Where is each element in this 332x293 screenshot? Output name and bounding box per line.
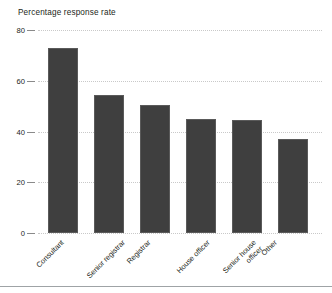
chart-title: Percentage response rate (18, 8, 116, 17)
bar-consultant[interactable] (48, 48, 78, 233)
bar-house-officer[interactable] (186, 119, 216, 233)
bar-registrar[interactable] (140, 105, 170, 233)
chart-figure: Percentage response rate 80 60 40 20 0 (0, 0, 332, 293)
y-tick-label-0: 0 (21, 229, 25, 238)
bottom-divider (0, 286, 332, 287)
x-axis-labels: Consultant Senior registrar Registrar Ho… (38, 236, 322, 288)
bar-senior-house-officer[interactable] (232, 120, 262, 233)
y-tick-label-20: 20 (17, 178, 25, 187)
bar-senior-registrar[interactable] (94, 95, 124, 233)
y-tick-label-80: 80 (17, 26, 25, 35)
y-tick-label-40: 40 (17, 127, 25, 136)
x-label-consultant: Consultant (34, 238, 65, 269)
x-label-registrar: Registrar (125, 238, 153, 266)
x-label-senior-registrar: Senior registrar (85, 238, 127, 280)
tick-mark-80 (27, 30, 35, 31)
x-label-other: Other (259, 238, 278, 257)
x-label-house-officer: House officer (175, 238, 212, 275)
gridline-0 (38, 233, 322, 234)
tick-mark-0 (27, 233, 35, 234)
y-tick-label-60: 60 (17, 76, 25, 85)
x-label-senior-house-officer: Senior house officer (221, 238, 265, 282)
tick-mark-20 (27, 182, 35, 183)
tick-mark-40 (27, 132, 35, 133)
bar-series (38, 30, 322, 233)
plot-area: 80 60 40 20 0 (38, 30, 322, 233)
bar-other[interactable] (278, 139, 308, 233)
tick-mark-60 (27, 81, 35, 82)
